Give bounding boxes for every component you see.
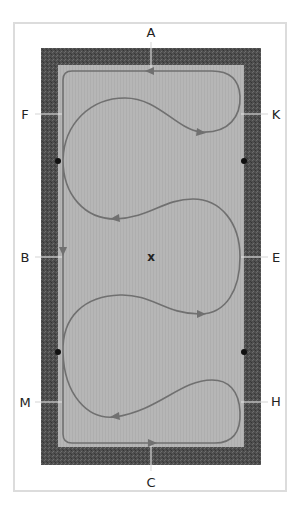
marker-dot <box>241 349 247 355</box>
letter-c: C <box>146 476 155 489</box>
letter-f: F <box>21 108 28 121</box>
letter-k: K <box>272 108 281 121</box>
marker-dot <box>55 158 61 164</box>
letter-m: M <box>19 396 30 409</box>
letter-e: E <box>272 251 280 264</box>
center-x-mark: x <box>147 251 155 263</box>
marker-dot <box>241 158 247 164</box>
letter-h: H <box>271 395 281 408</box>
marker-dot <box>55 349 61 355</box>
letter-a: A <box>147 26 156 39</box>
letter-b: B <box>21 251 30 264</box>
